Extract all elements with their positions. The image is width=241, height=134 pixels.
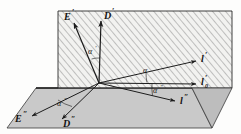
label-D-prime-base: D [103,10,111,21]
label-l0-prime-base: l [201,76,204,87]
label-alpha-double-prime-right-mark: ″ [160,83,163,90]
label-E-double-prime-base: E [14,113,22,124]
label-l-double-prime-mark: ″ [184,93,188,102]
label-l-prime-mark: ′ [205,51,207,60]
label-E-prime-base: E [63,11,71,22]
label-alpha-double-prime-left-mark: ″ [64,96,67,103]
label-D-double-prime-mark: ″ [71,115,75,124]
label-l0-prime: l ′ 0 [201,74,208,89]
label-l0-prime-mark: ′ [205,74,207,83]
vector-diagram-figure: E ′ D ′ l ′ l ′ 0 l ″ E ″ D ″ [0,0,241,134]
horizontal-ground-plane [7,88,212,128]
vector-diagram-canvas: E ′ D ′ l ′ l ′ 0 l ″ E ″ D ″ [0,0,241,134]
label-l0-prime-sub: 0 [205,83,208,89]
label-D-prime-mark: ′ [112,7,114,16]
label-l-prime-base: l [201,53,204,64]
label-E-double-prime-mark: ″ [23,110,27,119]
label-l-double-prime-base: l [180,95,183,106]
label-E-prime-mark: ′ [72,8,74,17]
label-D-double-prime-base: D [62,118,70,129]
